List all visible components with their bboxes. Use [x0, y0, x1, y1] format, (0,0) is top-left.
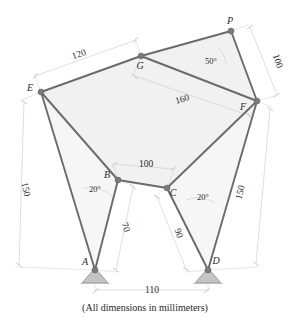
joint-P: [228, 28, 234, 34]
tick-AD-start: [93, 288, 99, 293]
joint-E: [38, 89, 44, 95]
diagram-canvas: A B C D E F G P 120 160 100 150 150 100 …: [0, 0, 290, 319]
node-label-A: A: [81, 256, 89, 267]
dim-label-AD: 110: [145, 285, 159, 295]
dim-label-EA: 150: [20, 181, 33, 197]
dim-label-FD: 150: [233, 184, 246, 201]
joint-B: [115, 177, 121, 183]
dim-label-BC: 100: [139, 159, 154, 169]
node-label-F: F: [239, 101, 247, 112]
angle-label-C: 20°: [197, 192, 209, 202]
joint-G: [138, 53, 144, 59]
tick-CD-end: [183, 267, 189, 271]
angle-label-P: 50°: [205, 56, 217, 66]
dim-label-CD: 90: [173, 227, 185, 239]
dim-line-FD: [256, 109, 270, 264]
figure-caption: (All dimensions in millimeters): [82, 302, 208, 314]
angle-label-B: 20°: [89, 184, 101, 194]
ext-line-D-rt: [208, 267, 258, 270]
node-label-D: D: [211, 255, 220, 266]
joint-F: [254, 98, 260, 104]
ext-line-A-lt: [15, 267, 95, 270]
tick-EG-end: [133, 37, 138, 43]
tick-PF-end: [274, 93, 280, 97]
node-label-B: B: [104, 169, 110, 180]
tick-AD-end: [204, 288, 210, 293]
dim-label-EG: 120: [71, 47, 88, 61]
panel-shading-group: [41, 31, 257, 270]
node-label-P: P: [226, 15, 233, 26]
tick-CD-start: [154, 195, 160, 199]
node-label-E: E: [26, 82, 33, 93]
truss-diagram: A B C D E F G P 120 160 100 150 150 100 …: [0, 0, 290, 319]
dim-label-PF: 100: [271, 53, 285, 70]
node-label-G: G: [136, 60, 143, 71]
tick-PF-start: [247, 25, 253, 29]
node-label-C: C: [170, 187, 177, 198]
joint-D: [205, 267, 211, 273]
dim-label-BA: 70: [120, 221, 132, 233]
joint-A: [92, 267, 98, 273]
